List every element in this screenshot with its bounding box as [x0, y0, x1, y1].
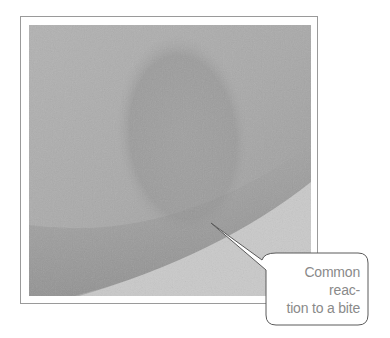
callout-label: Common reac- tion to a bite — [270, 263, 364, 317]
skin-photo-graphic — [29, 25, 311, 296]
callout-line-2: tion to a bite — [270, 299, 360, 317]
bite-photo — [29, 25, 311, 296]
callout-line-1: Common reac- — [270, 263, 360, 299]
